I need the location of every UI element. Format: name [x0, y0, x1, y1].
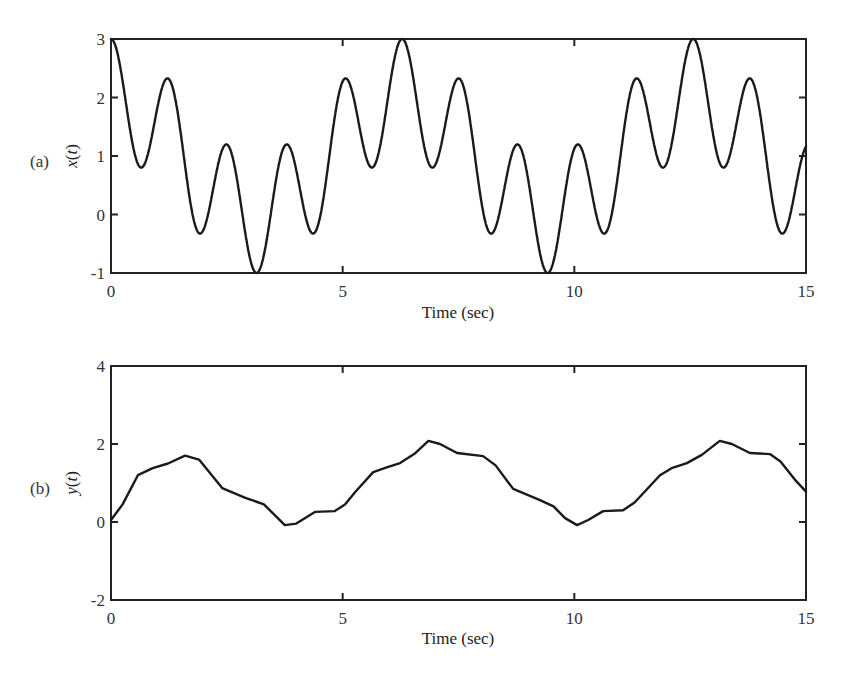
panel-b-axes: 051015-2024: [91, 357, 815, 628]
signal-curve: [111, 39, 806, 273]
panel-a-ylabel: x(t): [62, 144, 81, 169]
y-tick-label: 0: [97, 513, 106, 532]
y-tick-label: 0: [97, 206, 106, 225]
panel-b-ylabel: y(t): [62, 471, 81, 497]
panel-a: (a) x(t) 051015-10123 Time (sec): [30, 30, 815, 322]
panel-b: (b) y(t) 051015-2024 Time (sec): [30, 357, 815, 648]
y-tick-label: 4: [97, 357, 106, 376]
y-tick-label: 1: [97, 147, 106, 166]
panel-b-label: (b): [30, 479, 50, 498]
x-tick-label: 15: [798, 282, 815, 301]
plot-frame: [111, 366, 806, 600]
signal-curve: [111, 441, 806, 525]
plot-frame: [111, 39, 806, 273]
figure: (a) x(t) 051015-10123 Time (sec) (b) y(t…: [0, 0, 841, 688]
x-tick-label: 10: [566, 282, 583, 301]
x-tick-label: 5: [338, 282, 347, 301]
panel-a-axes: 051015-10123: [91, 30, 815, 301]
x-tick-label: 5: [338, 609, 347, 628]
y-tick-label: -1: [91, 264, 105, 283]
ylabel-func: y: [62, 487, 81, 497]
panel-a-label: (a): [30, 152, 49, 171]
y-tick-label: 2: [97, 435, 106, 454]
panel-a-xlabel: Time (sec): [422, 303, 495, 322]
y-tick-label: 2: [97, 89, 106, 108]
x-tick-label: 0: [107, 609, 116, 628]
x-tick-label: 15: [798, 609, 815, 628]
y-tick-label: -2: [91, 591, 105, 610]
y-tick-label: 3: [97, 30, 106, 49]
panel-b-xlabel: Time (sec): [422, 629, 495, 648]
x-tick-label: 10: [566, 609, 583, 628]
x-tick-label: 0: [107, 282, 116, 301]
